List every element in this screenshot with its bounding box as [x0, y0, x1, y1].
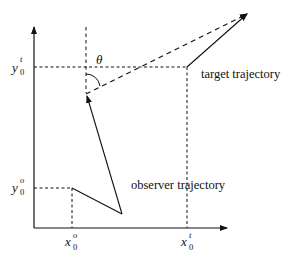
observer-trajectory-leg1 — [72, 188, 122, 214]
svg-text:0: 0 — [73, 242, 77, 252]
svg-text:x: x — [180, 234, 187, 249]
angle-label: θ — [96, 52, 103, 67]
svg-text:0: 0 — [189, 242, 193, 252]
svg-text:0: 0 — [20, 67, 24, 77]
line-of-sight — [86, 14, 247, 94]
target-trajectory-label: target trajectory — [201, 67, 281, 81]
x-target-label: x t 0 — [180, 230, 193, 252]
svg-text:t: t — [189, 230, 192, 240]
svg-text:0: 0 — [20, 187, 24, 197]
y-observer-label: y o 0 — [10, 175, 24, 197]
angle-arc — [86, 74, 100, 86]
svg-text:o: o — [73, 230, 77, 240]
svg-text:y: y — [10, 60, 18, 75]
observer-trajectory-leg2 — [87, 96, 122, 214]
svg-text:y: y — [10, 180, 18, 195]
y-target-label: y t 0 — [10, 54, 24, 77]
svg-text:x: x — [64, 234, 71, 249]
target-trajectory-line — [187, 14, 247, 67]
x-observer-label: x o 0 — [64, 230, 77, 252]
observer-trajectory-label: observer trajectory — [131, 178, 226, 192]
bearing-diagram: θ y t 0 y o 0 x o 0 x t 0 target traject… — [0, 0, 295, 257]
svg-text:o: o — [20, 175, 24, 185]
svg-text:t: t — [20, 54, 23, 64]
